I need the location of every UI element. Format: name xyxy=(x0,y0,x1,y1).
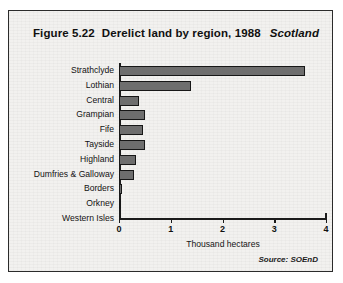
x-axis-tick-label: 1 xyxy=(168,224,173,234)
bar xyxy=(119,140,145,150)
bar-row: Strathclyde xyxy=(119,64,326,79)
bar xyxy=(119,125,143,135)
bar-row: Orkney xyxy=(119,197,326,212)
category-label: Lothian xyxy=(86,79,114,91)
bar xyxy=(119,199,121,209)
bar xyxy=(119,184,122,194)
bar xyxy=(119,170,134,180)
category-label: Central xyxy=(86,94,114,106)
category-label: Western Isles xyxy=(62,212,114,224)
bar-row: Lothian xyxy=(119,79,326,94)
category-label: Orkney xyxy=(86,197,114,209)
figure-panel: Figure 5.22Derelict land by region, 1988… xyxy=(8,10,333,272)
category-label: Borders xyxy=(84,182,114,194)
x-axis-tick xyxy=(326,218,327,223)
bar-row: Fife xyxy=(119,123,326,138)
bar-row: Dumfries & Galloway xyxy=(119,168,326,183)
figure-region-label: Scotland xyxy=(270,27,319,39)
x-axis-tick-label: 2 xyxy=(220,224,225,234)
x-axis-tick-label: 4 xyxy=(323,224,328,234)
bar-row: Central xyxy=(119,94,326,109)
page-title: Figure 5.22Derelict land by region, 1988… xyxy=(33,27,319,39)
bar-row: Grampian xyxy=(119,108,326,123)
category-label: Dumfries & Galloway xyxy=(34,168,114,180)
bar-chart-plot-area: StrathclydeLothianCentralGrampianFifeTay… xyxy=(119,64,326,216)
category-label: Highland xyxy=(80,153,114,165)
x-axis-tick-label: 3 xyxy=(272,224,277,234)
bar xyxy=(119,155,136,165)
figure-title-text: Derelict land by region, 1988 xyxy=(102,27,261,39)
x-axis-tick-label: 0 xyxy=(116,224,121,234)
category-label: Fife xyxy=(100,123,114,135)
figure-page: Figure 5.22Derelict land by region, 1988… xyxy=(0,0,343,283)
x-axis-tick xyxy=(274,218,275,223)
bar xyxy=(119,66,305,76)
x-axis-label: Thousand hectares xyxy=(119,239,327,249)
bar-row: Highland xyxy=(119,153,326,168)
category-label: Tayside xyxy=(85,138,114,150)
bar-row: Borders xyxy=(119,182,326,197)
category-label: Strathclyde xyxy=(71,64,114,76)
bar xyxy=(119,81,191,91)
bar xyxy=(119,96,139,106)
bar-row: Tayside xyxy=(119,138,326,153)
x-axis-tick xyxy=(223,218,224,223)
figure-number: Figure 5.22 xyxy=(33,27,95,39)
category-label: Grampian xyxy=(76,108,114,120)
bar xyxy=(119,110,145,120)
source-note: Source: SOEnD xyxy=(258,255,318,264)
x-axis-tick xyxy=(171,218,172,223)
x-axis-tick xyxy=(119,218,120,223)
